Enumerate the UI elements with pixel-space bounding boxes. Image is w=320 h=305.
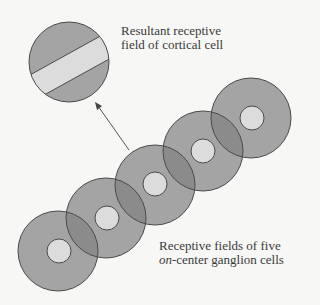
caption-italic: on: [159, 252, 172, 267]
ganglion-cell-center: [143, 172, 167, 196]
caption-rest: -center ganglion cells: [172, 252, 284, 267]
ganglion-cell-center: [95, 206, 119, 230]
caption-line: on-center ganglion cells: [159, 253, 284, 267]
ganglion-cell-center: [240, 106, 264, 130]
caption-line: Resultant receptive: [121, 24, 223, 38]
caption-line: field of cortical cell: [121, 38, 223, 52]
ganglion-cells-caption: Receptive fields of five on-center gangl…: [159, 239, 284, 267]
ganglion-cell-center: [191, 139, 215, 163]
caption-line: Receptive fields of five: [159, 239, 284, 253]
ganglion-cell-center: [47, 239, 71, 263]
cortical-cell-caption: Resultant receptive field of cortical ce…: [121, 24, 223, 52]
arrow-icon: [95, 102, 129, 150]
